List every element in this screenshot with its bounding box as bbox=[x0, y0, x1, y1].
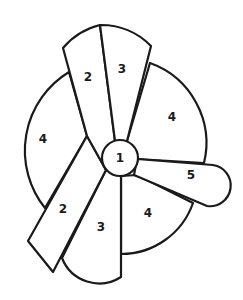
lower-right-sector-label: 4 bbox=[144, 206, 152, 220]
top-left-strip-label: 2 bbox=[84, 70, 92, 84]
lower-left-strip-label: 2 bbox=[59, 202, 67, 216]
diagram-canvas: 1 2 3 4 4 2 3 4 5 bbox=[0, 0, 243, 300]
center-label: 1 bbox=[116, 151, 124, 165]
lower-strip-label: 3 bbox=[97, 220, 105, 234]
top-right-strip-label: 3 bbox=[118, 62, 126, 76]
diagram: 1 2 3 4 4 2 3 4 5 bbox=[0, 0, 243, 300]
left-sector-label: 4 bbox=[39, 132, 47, 146]
right-sector-label: 4 bbox=[168, 110, 176, 124]
right-petal-label: 5 bbox=[187, 168, 195, 182]
